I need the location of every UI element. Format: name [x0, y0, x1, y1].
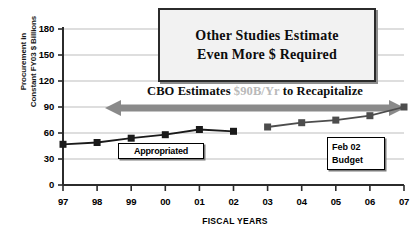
x-tick-label-03: 03: [255, 196, 281, 207]
x-tick-label-98: 98: [84, 196, 110, 207]
y-axis-title-line1: Procurement in: [19, 33, 28, 90]
arrow-label-prefix: CBO Estimates: [147, 84, 234, 98]
x-tick-label-00: 00: [152, 196, 178, 207]
arrow-annotation-label: CBO Estimates $90B/Yr to Recapitalize: [105, 84, 405, 99]
x-tick-label-07: 07: [391, 196, 413, 207]
x-tick-label-04: 04: [289, 196, 315, 207]
x-tick-label-97: 97: [50, 196, 76, 207]
label-feb02-line1: Feb 02: [332, 141, 361, 154]
recapitalize-arrow-icon: [105, 100, 405, 116]
arrow-label-suffix: to Recapitalize: [279, 84, 363, 98]
y-tick-label-30: 30: [22, 153, 54, 164]
callout-other-studies: Other Studies Estimate Even More $ Requi…: [158, 8, 376, 82]
y-axis-title: Procurement in Constant FY03 $ Billions: [19, 0, 38, 142]
chart-container: 180 150 120 90 60 30 0 97 98 99 00 01 02…: [0, 0, 413, 235]
x-tick-label-01: 01: [186, 196, 212, 207]
x-tick-label-99: 99: [118, 196, 144, 207]
callout-line-2: Even More $ Required: [197, 45, 337, 64]
x-tick-label-06: 06: [357, 196, 383, 207]
callout-line-1: Other Studies Estimate: [195, 26, 338, 45]
x-tick-label-02: 02: [221, 196, 247, 207]
label-appropriated-text: Appropriated: [134, 146, 188, 156]
y-tick-label-0: 0: [22, 179, 54, 190]
x-tick-label-05: 05: [323, 196, 349, 207]
label-box-appropriated: Appropriated: [118, 143, 204, 159]
x-axis-title: FISCAL YEARS: [60, 216, 410, 226]
arrow-label-highlight: $90B/Yr: [234, 84, 280, 98]
label-feb02-line2: Budget: [332, 154, 363, 167]
label-box-feb02-budget: Feb 02 Budget: [327, 137, 385, 170]
y-axis-title-line2: Constant FY03 $ Billions: [28, 16, 37, 107]
